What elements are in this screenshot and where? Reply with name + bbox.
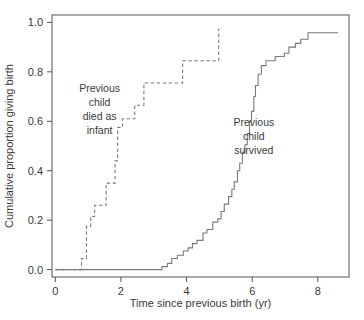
x-tick-label: 4 [183,285,189,297]
x-tick-label: 0 [52,285,58,297]
x-axis-label: Time since previous birth (yr) [130,297,271,309]
x-tick-label: 8 [315,285,321,297]
x-tick-label: 2 [118,285,124,297]
annotation-previous-child-died-as-infant: infant [87,124,113,136]
x-axis-ticks: 02468 [52,277,321,297]
data-series-group [55,29,338,270]
y-tick-label: 1.0 [28,16,43,28]
annotation-group: Previouschilddied asinfantPreviouschilds… [79,82,274,157]
plot-frame [52,15,349,277]
annotation-previous-child-survived: survived [234,144,273,156]
y-tick-label: 0.8 [28,66,43,78]
plot-border [52,15,349,277]
y-tick-label: 0.2 [28,214,43,226]
annotation-previous-child-died-as-infant: Previous [79,82,120,94]
y-tick-label: 0.6 [28,115,43,127]
annotation-previous-child-survived: child [243,130,265,142]
annotation-previous-child-survived: Previous [233,116,274,128]
annotation-previous-child-died-as-infant: died as [83,110,117,122]
series-solid [55,33,338,270]
y-axis-ticks: 0.00.20.40.60.81.0 [28,16,52,275]
series-dashed [55,29,218,270]
annotation-previous-child-died-as-infant: child [89,96,111,108]
figure-chart-cumulative-birth-proportion: 02468 0.00.20.40.60.81.0 Previouschilddi… [0,0,364,320]
step-chart-svg: 02468 0.00.20.40.60.81.0 Previouschilddi… [0,0,364,320]
x-tick-label: 6 [249,285,255,297]
y-axis-label: Cumulative proportion giving birth [3,64,15,228]
y-tick-label: 0.4 [28,165,43,177]
y-tick-label: 0.0 [28,264,43,276]
